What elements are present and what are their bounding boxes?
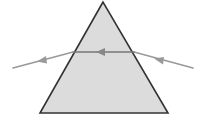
prism-diagram xyxy=(0,0,203,133)
prism-triangle xyxy=(40,2,168,113)
arrow-left-icon xyxy=(37,56,47,64)
